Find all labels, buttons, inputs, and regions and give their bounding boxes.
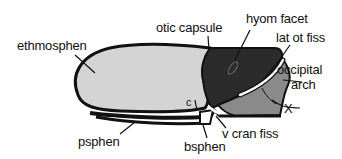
label-v-cran-fiss: v cran fiss	[222, 127, 278, 140]
label-ethmosphen: ethmosphen	[17, 39, 87, 52]
label-psphen: psphen	[78, 135, 119, 148]
label-otic-capsule: otic capsule	[156, 21, 222, 34]
label-hyom-facet: hyom facet	[246, 12, 308, 25]
label-lat-ot-fiss: lat ot fiss	[276, 31, 325, 44]
label-c: c	[186, 96, 191, 109]
bsphen-tab	[200, 110, 213, 124]
ethmosphen-region	[75, 44, 212, 111]
label-x: X	[284, 102, 292, 115]
label-bsphen: bsphen	[184, 140, 225, 153]
leader-bsphen	[203, 125, 207, 138]
label-occipital-arch-line1: occipital	[277, 63, 322, 76]
leader-psphen	[120, 122, 135, 134]
label-occipital-arch-line2: arch	[291, 78, 316, 91]
